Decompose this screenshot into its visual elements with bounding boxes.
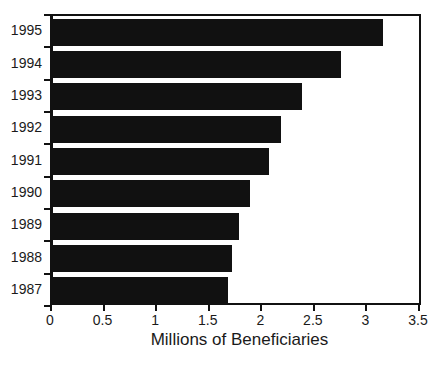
bar-fill	[53, 277, 228, 304]
y-axis-label-1988: 1988	[11, 250, 42, 264]
x-axis-label-3.5: 3.5	[408, 313, 427, 328]
bar-1990	[53, 180, 250, 207]
y-tick-1991	[44, 143, 51, 145]
bar-1991	[53, 148, 269, 175]
x-tick-2	[260, 305, 262, 311]
x-axis-title: Millions of Beneficiaries	[0, 330, 445, 350]
plot-area	[50, 14, 421, 305]
y-axis-label-1993: 1993	[11, 88, 42, 102]
bar-fill	[53, 245, 232, 272]
y-tick-1987	[44, 273, 51, 275]
y-tick-1992	[44, 111, 51, 113]
bar-fill	[53, 148, 269, 175]
bar-1989	[53, 213, 239, 240]
x-tick-1.5	[208, 305, 210, 311]
x-axis-label-2.5: 2.5	[303, 313, 322, 328]
x-tick-0.5	[103, 305, 105, 311]
bar-fill	[53, 83, 302, 110]
bar-1993	[53, 83, 302, 110]
bar-fill	[53, 180, 250, 207]
y-axis-label-1991: 1991	[11, 153, 42, 167]
x-axis-label-3: 3	[362, 313, 370, 328]
bar-fill	[53, 213, 239, 240]
bar-fill	[53, 116, 281, 143]
x-axis-label-0.5: 0.5	[93, 313, 112, 328]
y-axis-label-1994: 1994	[11, 56, 42, 70]
y-tick-bottom	[44, 305, 51, 307]
bars-layer	[53, 16, 419, 303]
bar-1988	[53, 245, 232, 272]
bar-fill	[53, 51, 341, 78]
y-axis-category-labels: 199519941993199219911990198919881987	[0, 14, 45, 305]
y-tick-1994	[44, 46, 51, 48]
x-axis-label-1.5: 1.5	[198, 313, 217, 328]
y-axis-label-1987: 1987	[11, 282, 42, 296]
bar-1992	[53, 116, 281, 143]
y-tick-1988	[44, 240, 51, 242]
bar-fill	[53, 19, 383, 46]
bar-1994	[53, 51, 341, 78]
y-tick-1995	[44, 14, 51, 16]
x-tick-1	[155, 305, 157, 311]
y-axis-label-1990: 1990	[11, 185, 42, 199]
y-axis-label-1995: 1995	[11, 23, 42, 37]
bar-chart: 199519941993199219911990198919881987 00.…	[0, 0, 445, 366]
y-tick-1990	[44, 176, 51, 178]
y-axis-label-1989: 1989	[11, 217, 42, 231]
bar-1995	[53, 19, 383, 46]
x-tick-2.5	[313, 305, 315, 311]
x-axis-title-text: Millions of Beneficiaries	[117, 330, 329, 350]
x-axis-label-1: 1	[151, 313, 159, 328]
bar-1987	[53, 277, 228, 304]
x-tick-3.5	[418, 305, 420, 311]
x-axis-label-2: 2	[256, 313, 264, 328]
y-tick-1989	[44, 208, 51, 210]
x-axis-label-0: 0	[46, 313, 54, 328]
y-tick-1993	[44, 79, 51, 81]
y-axis-label-1992: 1992	[11, 120, 42, 134]
x-tick-3	[365, 305, 367, 311]
